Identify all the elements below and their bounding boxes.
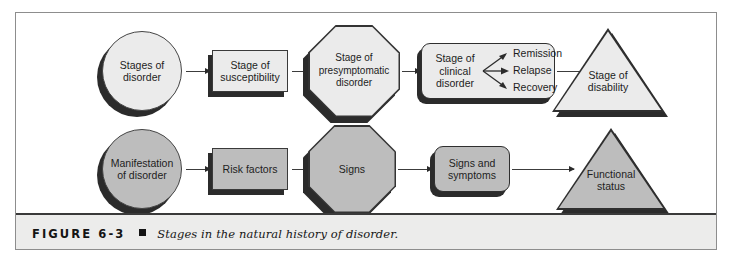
rectangle-shape <box>212 50 288 92</box>
branch-arrows <box>481 47 513 95</box>
octagon-shape <box>310 27 399 116</box>
connector-manifestation-to-risk-factors <box>186 169 210 170</box>
rectangle-shape <box>212 148 288 190</box>
node-stage-of-presymptomatic-disorder[interactable]: Stage of presymptomatic disorder <box>308 25 400 117</box>
triangle-shape <box>555 31 662 110</box>
triangle-shape <box>559 131 664 208</box>
node-manifestation-of-disorder[interactable]: Manifestation of disorder <box>102 129 182 209</box>
connector-signs-to-signs-and-symptoms <box>398 169 432 170</box>
node-functional-status[interactable]: Functional status <box>556 128 666 210</box>
figure-number: FIGURE 6-3 <box>32 227 125 241</box>
caption-inner: FIGURE 6-3 Stages in the natural history… <box>32 224 398 242</box>
rounded-rectangle-shape <box>434 146 510 192</box>
figure-caption-band: FIGURE 6-3 Stages in the natural history… <box>16 213 716 249</box>
circle-shape <box>102 129 182 209</box>
figure-root: Stages of disorder Stage of susceptibili… <box>0 0 732 265</box>
node-stage-of-susceptibility[interactable]: Stage of susceptibility <box>212 50 288 92</box>
branch-label-recovery: Recovery <box>513 81 557 94</box>
circle-shape <box>102 31 182 111</box>
figure-caption-text: Stages in the natural history of disorde… <box>157 227 398 241</box>
node-signs-and-symptoms[interactable]: Signs and symptoms <box>434 146 510 192</box>
node-risk-factors[interactable]: Risk factors <box>212 148 288 190</box>
octagon-shape <box>310 127 395 212</box>
connector-stages-to-susceptibility <box>186 71 210 72</box>
diagram-canvas: Stages of disorder Stage of susceptibili… <box>16 13 716 213</box>
square-bullet-icon <box>139 229 146 236</box>
node-stage-of-disability[interactable]: Stage of disability <box>552 28 664 112</box>
figure-frame: Stages of disorder Stage of susceptibili… <box>15 12 717 250</box>
node-signs[interactable]: Signs <box>308 125 396 213</box>
node-stages-of-disorder[interactable]: Stages of disorder <box>102 31 182 111</box>
branch-label-relapse: Relapse <box>513 64 552 77</box>
